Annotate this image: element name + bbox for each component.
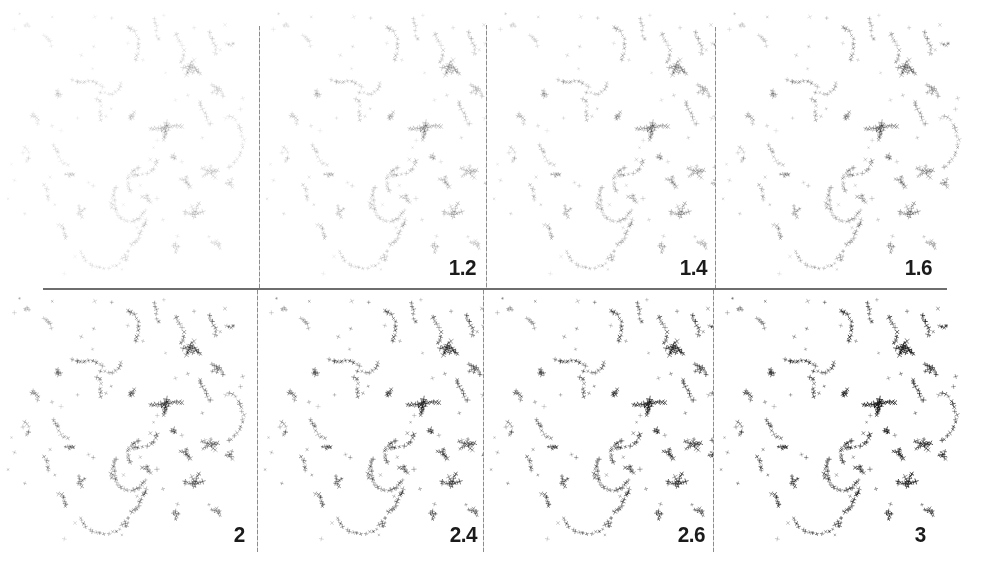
panel-2_4: 2.4 [257, 289, 483, 579]
column-divider [713, 290, 714, 552]
column-divider [257, 290, 258, 552]
panel-1_6: 1.6 [715, 0, 982, 289]
column-divider [486, 25, 487, 288]
panel-density-label: 2.4 [450, 524, 477, 546]
panel-density-label: 2 [234, 524, 245, 546]
speckle-pattern-canvas [259, 0, 486, 289]
column-divider [483, 290, 484, 552]
column-divider [259, 26, 260, 288]
panel-1_2: 1.2 [259, 0, 486, 289]
panel-3: 3 [713, 289, 982, 579]
panel-1_4: 1.4 [486, 0, 715, 289]
panel-density-label: 1.2 [449, 257, 476, 279]
panel-2: 2 [0, 289, 257, 579]
speckle-pattern-canvas [486, 0, 715, 289]
panel-2_6: 2.6 [483, 289, 713, 579]
panel-1 [0, 0, 259, 289]
panel-density-label: 3 [915, 524, 926, 546]
speckle-pattern-canvas [713, 289, 982, 579]
panel-density-label: 1.6 [905, 257, 932, 279]
figure-panel-grid: 1.2 1.4 1.6 2 2.4 2.6 3 [0, 0, 982, 579]
speckle-pattern-canvas [0, 0, 259, 289]
speckle-pattern-canvas [715, 0, 982, 289]
column-divider [715, 27, 716, 288]
row-divider [43, 288, 947, 290]
panel-density-label: 1.4 [680, 257, 707, 279]
panel-density-label: 2.6 [678, 524, 705, 546]
speckle-pattern-canvas [0, 289, 257, 579]
